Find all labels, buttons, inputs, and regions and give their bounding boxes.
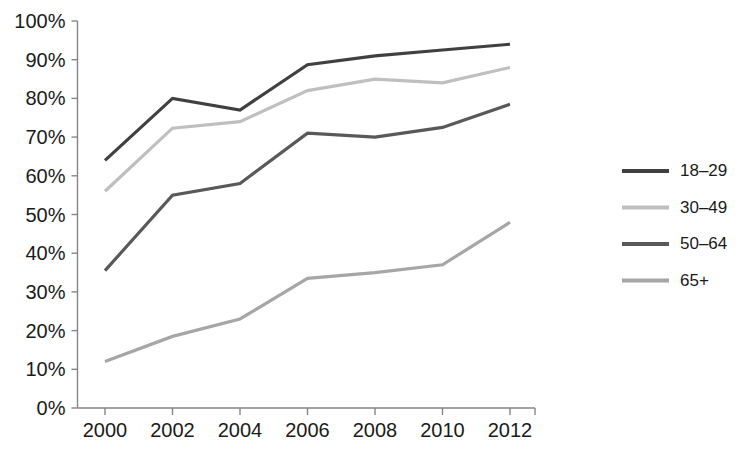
- y-tick-label: 60%: [25, 165, 65, 187]
- line-chart: 0%10%20%30%40%50%60%70%80%90%100% 200020…: [0, 0, 739, 463]
- chart-container: 0%10%20%30%40%50%60%70%80%90%100% 200020…: [0, 0, 739, 463]
- y-tick-label: 30%: [25, 281, 65, 303]
- legend-label-65-: 65+: [680, 271, 709, 290]
- x-tick-label: 2012: [488, 419, 533, 441]
- y-axis: 0%10%20%30%40%50%60%70%80%90%100%: [14, 10, 77, 419]
- legend-label-30-49: 30–49: [680, 198, 727, 217]
- series-line-30-49: [105, 67, 510, 191]
- y-tick-label: 10%: [25, 358, 65, 380]
- series-line-50-64: [105, 104, 510, 270]
- x-tick-label: 2000: [83, 419, 128, 441]
- legend-label-18-29: 18–29: [680, 161, 727, 180]
- series-line-65-: [105, 222, 510, 361]
- x-tick-label: 2008: [353, 419, 398, 441]
- y-tick-label: 90%: [25, 49, 65, 71]
- x-tick-label: 2002: [150, 419, 195, 441]
- x-tick-label: 2006: [285, 419, 330, 441]
- legend-label-50-64: 50–64: [680, 234, 727, 253]
- x-axis: 2000200220042006200820102012: [78, 408, 536, 441]
- y-tick-label: 80%: [25, 87, 65, 109]
- y-tick-label: 100%: [14, 10, 65, 32]
- x-tick-label: 2010: [420, 419, 465, 441]
- chart-legend: 18–2930–4950–6465+: [622, 161, 727, 290]
- x-tick-label: 2004: [218, 419, 263, 441]
- y-tick-label: 0%: [37, 397, 66, 419]
- series-line-18-29: [105, 44, 510, 160]
- series-lines: [105, 44, 510, 361]
- y-tick-label: 70%: [25, 126, 65, 148]
- y-tick-label: 50%: [25, 204, 65, 226]
- y-tick-label: 20%: [25, 320, 65, 342]
- y-tick-label: 40%: [25, 242, 65, 264]
